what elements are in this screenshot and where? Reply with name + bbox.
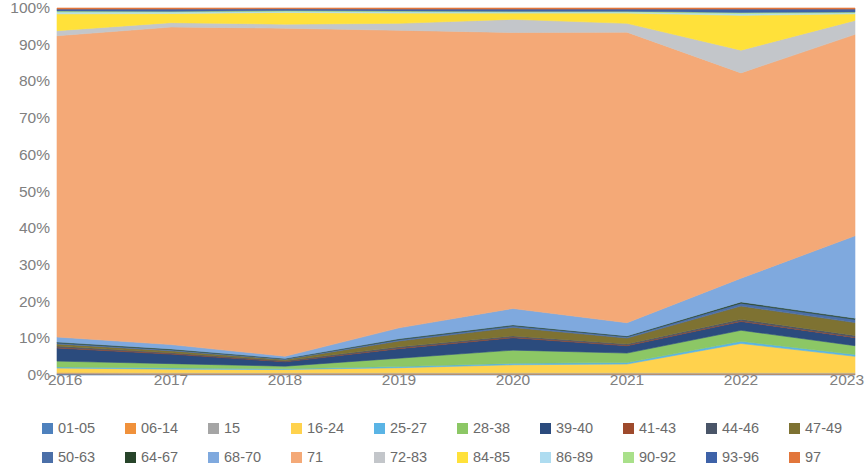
- legend-item-01-05[interactable]: 01-05: [42, 421, 125, 436]
- x-axis-tick-label: 2022: [724, 372, 758, 388]
- y-axis: 100%90%80%70%60%50%40%30%20%10%0%: [0, 0, 50, 396]
- legend-swatch-icon: [540, 423, 551, 434]
- legend-swatch-icon: [457, 423, 468, 434]
- plot-svg: [0, 0, 868, 396]
- y-axis-tick-label: 90%: [2, 37, 50, 53]
- legend-swatch-icon: [457, 452, 468, 463]
- x-axis-tick-label: 2023: [830, 372, 864, 388]
- legend-item-label: 16-24: [307, 421, 344, 436]
- legend-swatch-icon: [374, 423, 385, 434]
- legend-item-06-14[interactable]: 06-14: [125, 421, 208, 436]
- chart-legend: 01-0506-141516-2425-2728-3839-4041-4344-…: [0, 414, 868, 474]
- legend-item-label: 97: [805, 450, 821, 465]
- y-axis-tick-label: 20%: [2, 294, 50, 310]
- legend-swatch-icon: [706, 423, 717, 434]
- legend-swatch-icon: [125, 452, 136, 463]
- legend-item-label: 90-92: [639, 450, 676, 465]
- legend-item-label: 84-85: [473, 450, 510, 465]
- area-series-97: [57, 8, 855, 9]
- legend-swatch-icon: [291, 452, 302, 463]
- legend-item-68-70[interactable]: 68-70: [208, 450, 291, 465]
- stacked-area-chart: 100%90%80%70%60%50%40%30%20%10%0% 201620…: [0, 0, 868, 474]
- y-axis-tick-label: 70%: [2, 110, 50, 126]
- legend-swatch-icon: [42, 452, 53, 463]
- legend-item-71[interactable]: 71: [291, 450, 374, 465]
- legend-item-84-85[interactable]: 84-85: [457, 450, 540, 465]
- x-axis-tick-label: 2016: [48, 372, 82, 388]
- legend-item-label: 15: [224, 421, 240, 436]
- legend-item-16-24[interactable]: 16-24: [291, 421, 374, 436]
- legend-swatch-icon: [706, 452, 717, 463]
- legend-swatch-icon: [789, 423, 800, 434]
- legend-item-label: 28-38: [473, 421, 510, 436]
- legend-swatch-icon: [42, 423, 53, 434]
- legend-swatch-icon: [374, 452, 385, 463]
- legend-item-label: 39-40: [556, 421, 593, 436]
- legend-row: 50-6364-6768-707172-8384-8586-8990-9293-…: [0, 443, 868, 471]
- legend-item-label: 71: [307, 450, 323, 465]
- legend-item-97[interactable]: 97: [789, 450, 868, 465]
- legend-item-44-46[interactable]: 44-46: [706, 421, 789, 436]
- y-axis-tick-label: 40%: [2, 220, 50, 236]
- legend-swatch-icon: [540, 452, 551, 463]
- x-axis-tick-label: 2021: [610, 372, 644, 388]
- y-axis-tick-label: 50%: [2, 184, 50, 200]
- legend-item-72-83[interactable]: 72-83: [374, 450, 457, 465]
- legend-item-25-27[interactable]: 25-27: [374, 421, 457, 436]
- legend-item-label: 47-49: [805, 421, 842, 436]
- legend-item-label: 25-27: [390, 421, 427, 436]
- legend-item-28-38[interactable]: 28-38: [457, 421, 540, 436]
- legend-item-64-67[interactable]: 64-67: [125, 450, 208, 465]
- legend-item-41-43[interactable]: 41-43: [623, 421, 706, 436]
- legend-item-15[interactable]: 15: [208, 421, 291, 436]
- legend-item-label: 93-96: [722, 450, 759, 465]
- legend-item-label: 72-83: [390, 450, 427, 465]
- legend-item-50-63[interactable]: 50-63: [42, 450, 125, 465]
- legend-swatch-icon: [208, 423, 219, 434]
- x-axis-tick-label: 2019: [382, 372, 416, 388]
- legend-item-label: 86-89: [556, 450, 593, 465]
- y-axis-tick-label: 100%: [2, 0, 50, 16]
- y-axis-tick-label: 10%: [2, 331, 50, 347]
- plot-area: [0, 0, 868, 396]
- y-axis-tick-label: 30%: [2, 257, 50, 273]
- y-axis-tick-label: 60%: [2, 147, 50, 163]
- x-axis: 20162017201820192020202120222023: [0, 372, 868, 398]
- y-axis-tick-label: 80%: [2, 74, 50, 90]
- legend-item-label: 41-43: [639, 421, 676, 436]
- legend-swatch-icon: [125, 423, 136, 434]
- legend-item-93-96[interactable]: 93-96: [706, 450, 789, 465]
- legend-item-90-92[interactable]: 90-92: [623, 450, 706, 465]
- legend-swatch-icon: [623, 423, 634, 434]
- x-axis-tick-label: 2020: [496, 372, 530, 388]
- legend-item-label: 68-70: [224, 450, 261, 465]
- legend-swatch-icon: [789, 452, 800, 463]
- legend-swatch-icon: [623, 452, 634, 463]
- x-axis-tick-label: 2017: [154, 372, 188, 388]
- legend-item-47-49[interactable]: 47-49: [789, 421, 868, 436]
- legend-item-label: 06-14: [141, 421, 178, 436]
- legend-item-label: 01-05: [58, 421, 95, 436]
- legend-swatch-icon: [291, 423, 302, 434]
- legend-row: 01-0506-141516-2425-2728-3839-4041-4344-…: [0, 414, 868, 442]
- x-axis-tick-label: 2018: [268, 372, 302, 388]
- legend-item-label: 50-63: [58, 450, 95, 465]
- legend-item-86-89[interactable]: 86-89: [540, 450, 623, 465]
- legend-item-label: 64-67: [141, 450, 178, 465]
- legend-swatch-icon: [208, 452, 219, 463]
- legend-item-label: 44-46: [722, 421, 759, 436]
- legend-item-39-40[interactable]: 39-40: [540, 421, 623, 436]
